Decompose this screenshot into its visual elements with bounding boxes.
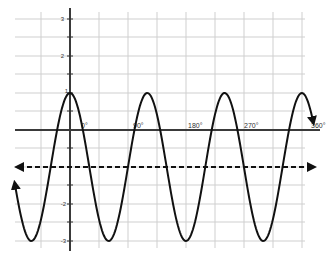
y-tick-neg2: -2	[61, 201, 67, 207]
x-label-270deg: 270°	[244, 122, 259, 129]
cosine-graph: 3 2 1 -2 -3 0° 90° 180° 270° 360°	[0, 0, 334, 259]
x-label-180deg: 180°	[188, 122, 203, 129]
y-tick-neg3: -3	[61, 238, 67, 244]
x-label-360deg: 360°	[311, 122, 326, 129]
